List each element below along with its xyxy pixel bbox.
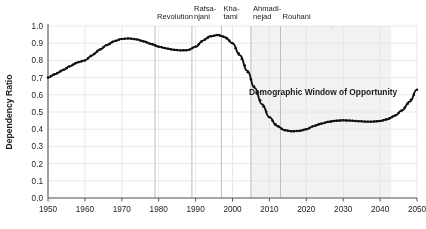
- svg-text:2030: 2030: [334, 205, 353, 214]
- svg-text:0.8: 0.8: [32, 56, 44, 65]
- svg-text:2040: 2040: [371, 205, 390, 214]
- svg-text:0.9: 0.9: [32, 39, 44, 48]
- y-axis-title: Dependency Ratio: [4, 75, 14, 150]
- band-label-demographic-window: Demographic Window of Opportunity: [249, 87, 398, 97]
- event-label-rouhani: Rouhani: [282, 12, 311, 21]
- event-label-khatami: tami: [223, 12, 238, 21]
- svg-text:1960: 1960: [76, 205, 95, 214]
- svg-text:0.1: 0.1: [32, 177, 44, 186]
- svg-text:2020: 2020: [297, 205, 316, 214]
- chart-figure: 1950196019701980199020002010202020302040…: [0, 0, 426, 229]
- svg-text:1.0: 1.0: [32, 22, 44, 31]
- svg-text:1990: 1990: [186, 205, 205, 214]
- svg-text:0.3: 0.3: [32, 142, 44, 151]
- svg-text:2000: 2000: [223, 205, 242, 214]
- event-label-rafsanjani: njani: [194, 12, 210, 21]
- dependency-ratio-line-chart: 1950196019701980199020002010202020302040…: [0, 0, 426, 229]
- svg-text:2050: 2050: [408, 205, 426, 214]
- svg-text:0.7: 0.7: [32, 74, 44, 83]
- event-label-revolution: Revolution: [157, 12, 193, 21]
- event-label-ahmadinejad: nejad: [253, 12, 272, 21]
- svg-text:Dependency Ratio: Dependency Ratio: [4, 75, 14, 150]
- svg-text:1970: 1970: [113, 205, 132, 214]
- svg-text:0.4: 0.4: [32, 125, 44, 134]
- svg-text:0.2: 0.2: [32, 160, 44, 169]
- svg-text:0.0: 0.0: [32, 194, 44, 203]
- svg-text:1950: 1950: [39, 205, 58, 214]
- svg-text:0.6: 0.6: [32, 91, 44, 100]
- svg-text:1980: 1980: [150, 205, 169, 214]
- shaded-region-label: Demographic Window of Opportunity: [249, 87, 398, 97]
- svg-text:0.5: 0.5: [32, 108, 44, 117]
- svg-text:2010: 2010: [260, 205, 279, 214]
